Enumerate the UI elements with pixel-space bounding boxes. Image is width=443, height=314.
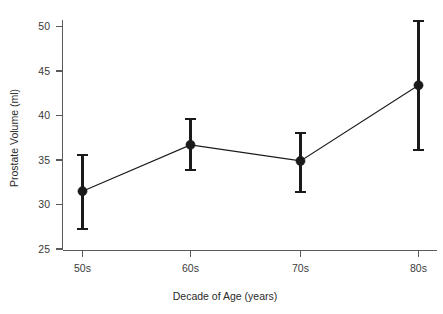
series-line-prostate-volume bbox=[83, 85, 419, 191]
x-tick-label-60s: 60s bbox=[182, 262, 199, 274]
y-tick-label-50: 50 bbox=[38, 20, 50, 32]
y-tick-label-40: 40 bbox=[38, 109, 50, 121]
chart-plot-area: 50 45 40 35 30 25 50s 60s 70s 80s Decade… bbox=[0, 0, 443, 314]
markers-group bbox=[78, 81, 423, 196]
x-axis-title: Decade of Age (years) bbox=[173, 290, 277, 302]
y-tick-label-25: 25 bbox=[38, 243, 50, 255]
data-point-50s[interactable] bbox=[78, 187, 87, 196]
x-tick-label-50s: 50s bbox=[74, 262, 91, 274]
chart-figure: 50 45 40 35 30 25 50s 60s 70s 80s Decade… bbox=[0, 0, 443, 314]
data-point-70s[interactable] bbox=[296, 156, 305, 165]
x-tick-label-70s: 70s bbox=[292, 262, 309, 274]
y-axis-title: Prostate Volume (ml) bbox=[8, 89, 20, 187]
data-point-80s[interactable] bbox=[414, 81, 423, 90]
y-tick-label-35: 35 bbox=[38, 154, 50, 166]
data-point-60s[interactable] bbox=[186, 140, 195, 149]
y-tick-label-45: 45 bbox=[38, 65, 50, 77]
errorbars-group bbox=[77, 21, 424, 229]
y-tick-label-30: 30 bbox=[38, 198, 50, 210]
x-tick-label-80s: 80s bbox=[410, 262, 427, 274]
